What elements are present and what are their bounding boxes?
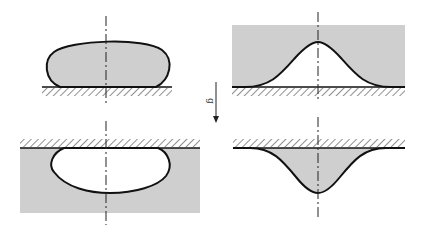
ceiling-hatch bbox=[20, 139, 200, 147]
gravity-indicator: g bbox=[206, 82, 219, 123]
panel-bump-cavity bbox=[232, 12, 405, 102]
gravity-arrow-head bbox=[213, 116, 219, 123]
gravity-label: g bbox=[206, 98, 216, 104]
panel-sessile-drop bbox=[42, 16, 172, 105]
ceiling-hatch bbox=[233, 139, 405, 147]
diagram: g bbox=[0, 0, 426, 234]
panel-hanging-bulge bbox=[233, 117, 405, 218]
panel-pendant-bubble bbox=[20, 121, 200, 225]
substrate-hatch bbox=[42, 88, 172, 96]
drop-shape bbox=[47, 42, 170, 87]
